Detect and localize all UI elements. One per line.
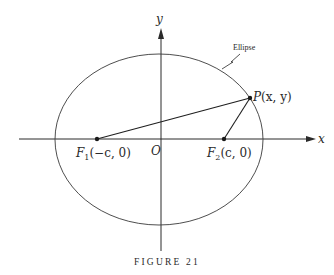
- y-axis-label: y: [155, 12, 163, 26]
- p-label: P(x, y): [252, 90, 292, 104]
- f2-label: F2(c, 0): [206, 146, 252, 162]
- ellipse-label: Ellipse: [233, 43, 256, 52]
- x-axis: x: [19, 132, 325, 146]
- ellipse-leader-line: [222, 54, 240, 69]
- ellipse-callout: Ellipse: [222, 43, 256, 69]
- point-p: [248, 96, 252, 100]
- segment-f1-p: [97, 98, 250, 139]
- point-f1: [95, 137, 99, 141]
- f1-label: F1(−c, 0): [75, 146, 131, 162]
- point-f2: [222, 137, 226, 141]
- x-axis-label: x: [318, 132, 325, 146]
- figure-caption: FIGURE 21: [134, 257, 200, 267]
- y-axis: y: [155, 12, 164, 251]
- y-axis-arrow-icon: [158, 28, 164, 39]
- ellipse-figure: x y Ellipse F1(−c, 0) F2(c, 0) P(x, y) O…: [0, 0, 334, 275]
- origin-label: O: [151, 144, 161, 158]
- x-axis-arrow-icon: [306, 136, 316, 142]
